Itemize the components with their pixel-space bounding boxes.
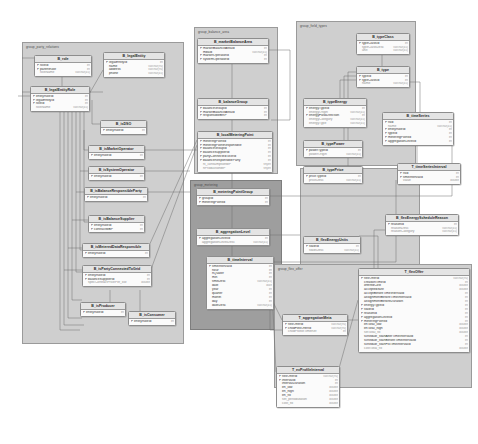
entity-box-b_isdso[interactable]: B_isDSOPintentityRoleId <box>100 120 147 135</box>
entity-field-list: PinttimeIntervalIdinthourinthQuaterintmi… <box>207 264 273 309</box>
field-name: entityRoleId <box>90 196 107 199</box>
entity-field: FintaggregationLevelId <box>385 140 452 144</box>
entity-box-b_flexenergyunits[interactable]: B_flexEnergyUnitsPintstateIdvarchar(45)s… <box>303 236 361 254</box>
entity-title: B_legalEntityRole <box>31 87 89 94</box>
entity-box-b_legalentityrole[interactable]: B_legalEntityRolePintentityRoleIdFintleg… <box>30 86 90 112</box>
field-name: hour <box>212 269 219 272</box>
entity-field: intchildProfileTimeRef <box>285 330 346 334</box>
field-name: name <box>388 125 396 128</box>
entity-box-b_isconsumer[interactable]: B_isConsumerPintentityRoleId <box>128 311 176 326</box>
entity-box-b_ismetereddataresponsible[interactable]: B_isMeteredDataResponsiblePintentityRole… <box>82 243 150 258</box>
field-type: varchar(45) <box>342 153 361 157</box>
entity-box-b_isproducer[interactable]: B_isProducerPintentityRoleId <box>80 302 126 317</box>
field-key-marker: F <box>199 201 201 205</box>
entity-box-t_exprofileinterval[interactable]: T_exProfileIntervalFvarchar(90)flexOffer… <box>276 366 340 408</box>
entity-box-b_flexenergyschedulereason[interactable]: B_flexEnergyScheduleReasonPintreasonIdva… <box>385 214 459 236</box>
entity-box-b_marketbalancearea[interactable]: B_marketBalanceAreaPintmarketBalanceArea… <box>197 38 269 64</box>
field-key-marker: P <box>87 196 89 200</box>
field-name: stateDesc <box>309 249 324 252</box>
entity-title: B_typeClass <box>357 34 409 41</box>
entity-box-b_ispartyconnectedtogrid[interactable]: B_isPartyConnectedToGridPintentityRoleId… <box>82 265 152 287</box>
field-name: typeId <box>362 75 371 78</box>
field-name: marketBalanceAreaId <box>203 111 235 114</box>
field-name: energyCategory <box>309 118 332 121</box>
entity-box-b_role[interactable]: B_rolePintroleIdFintparentRolevarchar(45… <box>34 55 92 77</box>
field-name: parentRole <box>40 68 56 71</box>
field-type: int <box>260 114 267 118</box>
field-name: marketBalanceAreaId <box>203 47 235 50</box>
entity-box-b_aggregationlevel[interactable]: B_aggregationLevelPintaggregationLevelId… <box>196 228 270 246</box>
entity-box-b_isbalanceresponsibleparty[interactable]: B_isBalanceResponsiblePartyPintentityRol… <box>84 187 148 202</box>
field-name: childProfileTimeRef <box>288 330 316 333</box>
entity-box-t_timeseriesinterval[interactable]: T_timeSeriesIntervalFinttsIdFinttimeInte… <box>397 163 461 185</box>
entity-box-b_timeinterval[interactable]: B_timeIntervalPinttimeIntervalIdinthouri… <box>206 256 274 310</box>
entity-field: FintresponsibleBRP <box>200 114 267 118</box>
field-name: entityRoleId <box>88 274 105 277</box>
entity-field: varchar(45)stateDesc <box>306 249 359 253</box>
field-name: en_low <box>282 386 292 389</box>
entity-box-b_balancegroup[interactable]: B_balanceGroupPintbalanceGroupIdFintmark… <box>197 98 269 120</box>
entity-title: B_isMeteredDataResponsible <box>83 244 149 251</box>
entity-field-list: PintgroupIdFintmeteringPointId <box>197 196 269 206</box>
entity-title: B_balanceGroup <box>198 99 268 106</box>
entity-box-t_aggregationmeta[interactable]: T_aggregationMetaFvarchar(90)flexOfferId… <box>282 314 348 336</box>
entity-field-list: PinttypeClassIdvarchar(45)typeClassDescv… <box>357 41 409 55</box>
entity-field-list: PintentityRoleId <box>83 251 149 257</box>
field-name: priceDesc <box>309 179 324 182</box>
field-name: mbaId <box>203 51 212 54</box>
field-type: double <box>137 281 150 285</box>
entity-title: B_localMeteringPoint <box>198 132 272 139</box>
field-key-marker: P <box>85 252 87 256</box>
field-type: int <box>445 140 452 144</box>
field-name: energyFlowDirection <box>309 114 339 117</box>
entity-title: B_aggregationLevel <box>197 229 269 236</box>
field-name: meteringPointId <box>364 320 387 323</box>
entity-title: B_type <box>357 67 409 74</box>
entity-box-b_typeenergy[interactable]: B_typeEnergyPintenergyTypeIdvarchar(45)e… <box>303 98 367 128</box>
entity-title: B_isSystemOperator <box>89 167 144 174</box>
entity-box-b_isbalancesupplier[interactable]: B_isBalanceSupplierPintentityRoleIdFintc… <box>88 215 145 233</box>
field-name: legalEntityId <box>109 61 127 64</box>
field-name: contractMBP <box>94 228 113 231</box>
entity-title: B_isMarketOperator <box>89 146 144 153</box>
field-name: entityRoleId <box>86 311 103 314</box>
field-name: energyType <box>309 122 326 125</box>
field-key-marker: P <box>131 320 133 324</box>
entity-field-list: PintentityRoleIdFintcontractMBP <box>89 223 144 233</box>
entity-field-list: Fvarchar(90)flexOfferIdFintintervalIdint… <box>277 374 339 407</box>
field-type: varchar(45) <box>71 71 90 75</box>
field-name: costTotal_fix <box>364 347 382 350</box>
field-name: year <box>212 288 218 291</box>
entity-field-list: PintaggregationLevelIdvarchar(45)aggrega… <box>197 236 269 246</box>
field-type: int <box>136 228 143 232</box>
entity-field: varchar(45)priceDesc <box>306 179 361 183</box>
entity-box-b_issystemoperator[interactable]: B_isSystemOperatorPintentityRoleId <box>88 166 145 181</box>
field-name: timeDesc <box>212 280 226 283</box>
field-name: intervalId <box>282 379 295 382</box>
field-type: int <box>141 252 148 256</box>
field-name: assignmentBeforeDuration <box>364 300 403 303</box>
entity-field: varchar(45)phone <box>106 72 163 76</box>
entity-box-b_ismarketoperator[interactable]: B_isMarketOperatorPintentityRoleId <box>88 145 145 160</box>
entity-field-list: PintentityRoleId <box>89 174 144 180</box>
field-name: acceptedSize <box>364 288 384 291</box>
entity-field: FintcontractMBP <box>91 228 143 232</box>
entity-field-list: PintstateIdvarchar(45)stateDesc <box>304 244 360 254</box>
entity-title: T_flexOffer <box>359 269 469 276</box>
entity-field-list: PintentityRoleIdFintlegalEntityIdFintrol… <box>31 94 89 112</box>
entity-field-list: PintreasonIdvarchar(45)reasonDescvarchar… <box>386 222 458 236</box>
entity-box-b_timeseries[interactable]: B_timeSeriesPinttsIdvarchar(45)nameFinte… <box>382 112 454 146</box>
field-name: entityRoleId <box>134 320 151 323</box>
entity-box-b_legalentity[interactable]: B_legalEntityPintlegalEntityIdvarchar(90… <box>103 52 165 78</box>
entity-box-b_type[interactable]: B_typePinttypeIdFinttypeClassIdvarchar(4… <box>356 66 410 88</box>
entity-box-b_typepower[interactable]: B_typePowerPintpowerTypeIdvarchar(45)pow… <box>303 140 363 158</box>
entity-box-t_flexoffer[interactable]: T_flexOfferPvarchar(90)flexOfferIdintcre… <box>358 268 470 353</box>
entity-box-b_meteringpointgroup[interactable]: B_meteringPointGroupPintgroupIdFintmeter… <box>196 188 270 206</box>
entity-field-list: PintentityRoleIdFintbalanceSupplierIddou… <box>83 273 151 287</box>
entity-box-b_localmeteringpoint[interactable]: B_localMeteringPointPintmeteringPointIdF… <box>197 131 273 173</box>
entity-box-b_typeprice[interactable]: B_typePricePintpriceTypeIdvarchar(45)pri… <box>303 166 363 184</box>
field-name: aggregationLevelId <box>388 140 416 143</box>
entity-box-b_typeclass[interactable]: B_typeClassPinttypeClassIdvarchar(45)typ… <box>356 33 410 55</box>
field-key-marker: P <box>83 311 85 315</box>
field-name: roleId <box>40 64 48 67</box>
